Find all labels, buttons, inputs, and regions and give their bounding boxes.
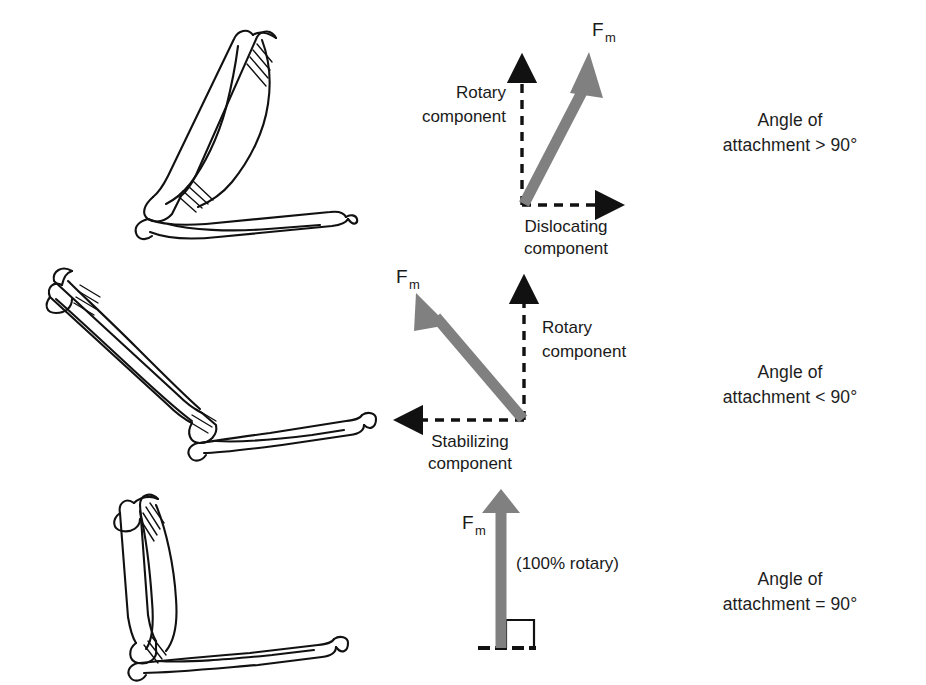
force-label: F [592,19,604,40]
muscle-force-vector [524,52,603,204]
force-label: F [396,266,408,287]
force-label: F [462,512,474,533]
force-subscript: m [475,523,486,538]
caption-line-2: attachment > 90° [660,133,920,158]
caption-line-2: attachment < 90° [660,385,920,410]
rotary-component-label-line1: Rotary [456,83,507,102]
muscle-force-vector [414,293,523,419]
panel-greater-than-90: F m Rotary component Dislocating compone… [0,0,926,255]
muscle-force-vector [482,489,520,648]
right-angle-marker [506,620,534,648]
panel-equal-90: F m (100% rotary) Angle of attachment = … [0,475,926,685]
rotary-component-label-line1: Rotary [542,318,593,337]
arm-illustration-extended [0,255,420,475]
dislocating-component-label-line1: Dislocating [524,217,607,236]
rotary-component-label-line2: component [542,342,626,361]
caption-line-1: Angle of [660,567,920,592]
caption-line-1: Angle of [660,360,920,385]
force-subscript: m [605,30,616,45]
stabilizing-component-label-line1: Stabilizing [431,432,509,451]
caption-line-1: Angle of [660,108,920,133]
force-diagram-less-than-90: F m Rotary component Stabilizing compone… [370,255,700,475]
caption-equal-90: Angle of attachment = 90° [660,567,920,618]
caption-greater-than-90: Angle of attachment > 90° [660,108,920,159]
rotary-component-label-line2: component [422,107,506,126]
caption-less-than-90: Angle of attachment < 90° [660,360,920,411]
arm-illustration-flexed [0,0,420,255]
rotary-note: (100% rotary) [516,554,619,573]
biomechanics-figure: F m Rotary component Dislocating compone… [0,0,926,685]
force-diagram-greater-than-90: F m Rotary component Dislocating compone… [370,0,700,255]
stabilizing-component-label-line2: component [428,454,512,473]
caption-line-2: attachment = 90° [660,592,920,617]
force-subscript: m [409,277,420,292]
force-diagram-equal-90: F m (100% rotary) [370,475,700,685]
arm-illustration-right-angle [0,475,420,685]
panel-less-than-90: F m Rotary component Stabilizing compone… [0,255,926,475]
